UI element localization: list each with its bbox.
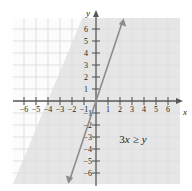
y-tick-label: 2 [84, 73, 88, 82]
x-tick-label: 4 [142, 105, 146, 114]
y-tick-label: −5 [83, 157, 92, 166]
x-tick-label: 3 [130, 105, 134, 114]
y-tick-label: 4 [84, 49, 88, 58]
inequality-graph-figure: −6 −5 −4 −3 −2 −1 1 2 3 4 5 6 6 5 4 3 2 … [0, 0, 192, 191]
y-tick-label: 1 [84, 85, 88, 94]
x-tick-label: −2 [68, 105, 77, 114]
y-axis-label: y [85, 8, 90, 18]
x-tick-label: 5 [154, 105, 158, 114]
x-tick-label: −5 [32, 105, 41, 114]
inequality-x-variable: x [124, 133, 130, 145]
coordinate-plane: −6 −5 −4 −3 −2 −1 1 2 3 4 5 6 6 5 4 3 2 … [0, 0, 192, 191]
y-tick-label: 6 [84, 25, 88, 34]
y-tick-label: 3 [84, 61, 88, 70]
x-tick-label: −3 [56, 105, 65, 114]
x-tick-label: 1 [106, 105, 110, 114]
x-tick-label: 2 [118, 105, 122, 114]
x-axis-label: x [182, 107, 187, 117]
inequality-y-variable: y [141, 133, 147, 145]
x-tick-label: −6 [20, 105, 29, 114]
y-tick-label: −4 [83, 145, 92, 154]
y-tick-label: −6 [83, 169, 92, 178]
x-tick-label: 6 [166, 105, 170, 114]
y-tick-label: 5 [84, 37, 88, 46]
inequality-operator: ≥ [133, 133, 139, 145]
x-tick-label: −4 [44, 105, 53, 114]
inequality-annotation: 3x≥y [119, 133, 146, 145]
